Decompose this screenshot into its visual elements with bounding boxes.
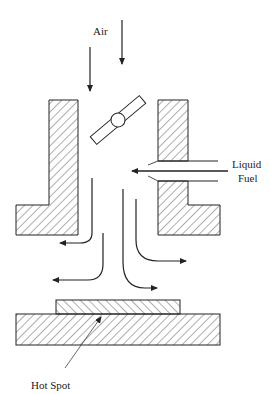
- liquid-label: Liquid: [232, 158, 262, 170]
- fuel-spray-top: [148, 161, 158, 165]
- throttle-valve: [89, 94, 147, 146]
- right-intake-wall-upper: [158, 100, 188, 161]
- flow-arrow-right-lower: [123, 189, 157, 288]
- right-intake-wall-lower: [158, 181, 220, 235]
- hot-spot-plate: [56, 300, 180, 314]
- air-label: Air: [93, 25, 108, 37]
- fuel-spray-bottom: [148, 176, 158, 181]
- hot-spot-label: Hot Spot: [31, 379, 70, 391]
- fuel-label: Fuel: [238, 172, 258, 184]
- base-wall: [16, 314, 220, 345]
- flow-arrow-left-lower: [53, 233, 103, 280]
- diagram-canvas: Air Liquid Fuel Hot Spot: [0, 0, 271, 394]
- left-intake-wall: [16, 100, 78, 235]
